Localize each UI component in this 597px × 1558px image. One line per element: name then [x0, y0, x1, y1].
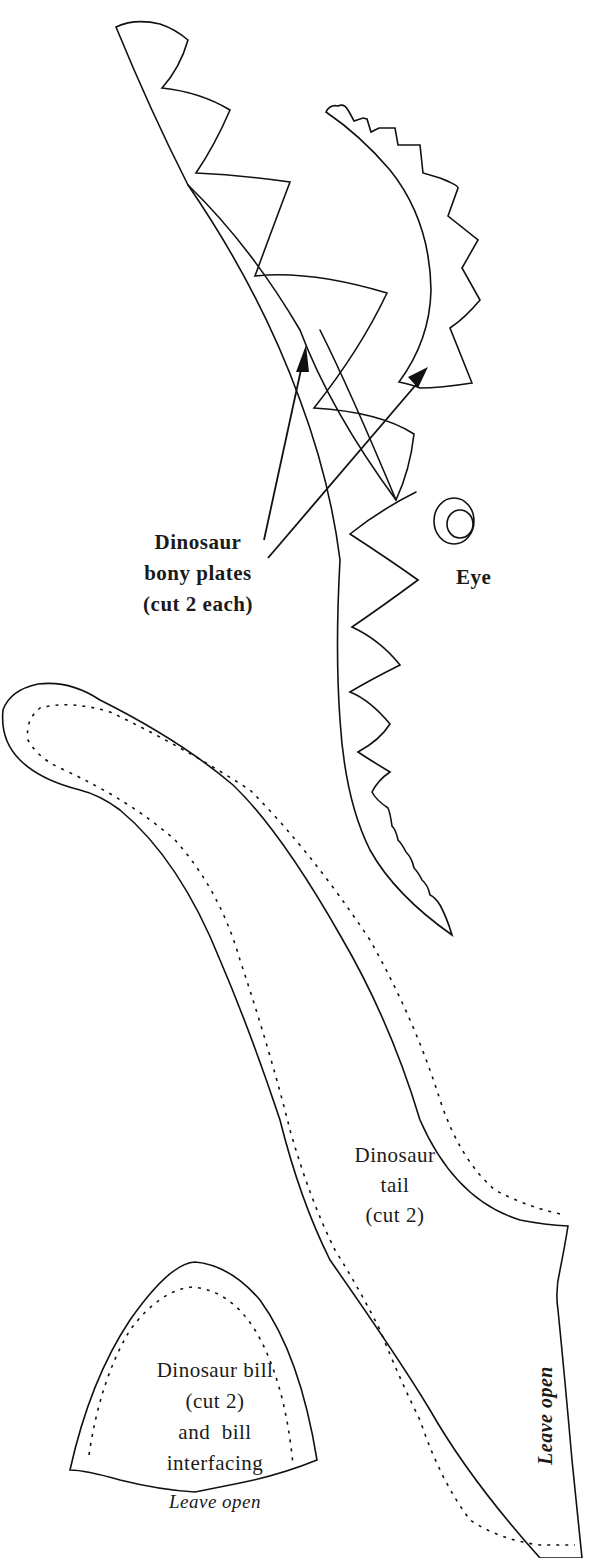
bony-plates-label-line-1: Dinosaur: [118, 527, 278, 558]
bill-label-line-4: interfacing: [130, 1448, 300, 1479]
bill-label: Dinosaur bill (cut 2) and bill interfaci…: [130, 1355, 300, 1479]
eye-label: Eye: [456, 562, 516, 593]
bill-label-line-3: and bill: [130, 1417, 300, 1448]
tail-label-line-1: Dinosaur: [340, 1140, 450, 1170]
eye-label-text: Eye: [456, 562, 516, 593]
tail-label-line-2: tail: [340, 1170, 450, 1200]
bony-plate-large-spine: [320, 330, 396, 500]
tail-label-line-3: (cut 2): [340, 1200, 450, 1230]
bill-label-line-2: (cut 2): [130, 1386, 300, 1417]
bony-plate-small-outline: [326, 105, 480, 388]
bony-plate-large-outline: [116, 22, 414, 500]
pattern-sheet: [0, 0, 597, 1558]
tail-leave-open-label: Leave open: [530, 1341, 561, 1491]
bony-plates-label-line-2: bony plates: [118, 558, 278, 589]
tail-label: Dinosaur tail (cut 2): [340, 1140, 450, 1230]
bony-plates-label: Dinosaur bony plates (cut 2 each): [118, 527, 278, 620]
bill-leave-open-label: Leave open: [150, 1486, 280, 1517]
bill-leave-open-text: Leave open: [150, 1486, 280, 1517]
tail-seam-line: [28, 705, 576, 1545]
tail-leave-open-text: Leave open: [530, 1341, 561, 1491]
arrow-to-large-plate: [264, 365, 302, 540]
bill-label-line-1: Dinosaur bill: [130, 1355, 300, 1386]
eye-inner-circle: [447, 510, 473, 538]
bony-plates-label-line-3: (cut 2 each): [118, 589, 278, 620]
arrow-to-small-plate: [268, 380, 420, 558]
